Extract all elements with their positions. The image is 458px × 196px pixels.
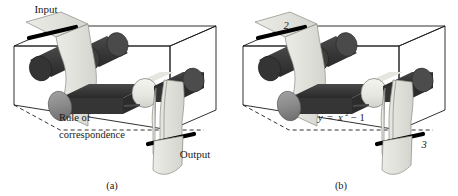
panel-caption-a: (a): [106, 180, 118, 192]
figure-canvas: Input Rule of correspondence Output (a) …: [0, 0, 458, 196]
panel-b: 2 3 y = x 2 − 1 (b): [243, 12, 445, 192]
output-value-b: 3: [420, 139, 426, 150]
panel-caption-b: (b): [335, 180, 348, 192]
equation-y: y: [317, 112, 323, 123]
input-value-b: 2: [283, 20, 289, 31]
equation-tail: − 1: [351, 112, 365, 123]
equation-x: x: [337, 112, 343, 123]
rule-label-line2-a: correspondence: [59, 129, 125, 140]
rule-label-line1-a: Rule of: [59, 112, 91, 123]
output-label-a: Output: [180, 148, 211, 160]
function-machine-b: [243, 12, 445, 174]
equation-exponent: 2: [345, 110, 349, 118]
function-machine-figure: Input Rule of correspondence Output (a) …: [0, 0, 458, 196]
panel-a: Input Rule of correspondence Output (a): [14, 3, 216, 192]
equation-equals: =: [327, 112, 333, 123]
input-label-a: Input: [34, 3, 57, 15]
